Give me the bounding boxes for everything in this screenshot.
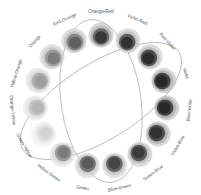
swatch-green-blue (127, 142, 152, 167)
swatch-yellow-green (50, 142, 75, 167)
swatch-violet (151, 68, 176, 93)
label-red-violet: Red-Violet (158, 32, 176, 52)
swatch-orange (39, 44, 64, 69)
shade-circle (69, 37, 81, 49)
shade-circle (82, 157, 94, 169)
label-blue-green: Blue-Green (107, 183, 131, 193)
swatch-violet-red (115, 28, 140, 53)
shade-circle (150, 127, 162, 139)
swatch-violet-blue (146, 122, 171, 147)
shade-circle (95, 31, 107, 43)
swatch-red-orange (62, 28, 87, 53)
label-orange-red: Orange-Red (88, 9, 114, 14)
swatch-yellow-orange (26, 68, 51, 93)
label-green-yellow: Green-Yellow (15, 132, 33, 159)
swatch-green-yellow (31, 122, 56, 147)
swatch-red-violet (138, 44, 163, 69)
shade-circle (158, 102, 170, 114)
shade-circle (32, 102, 44, 114)
swatch-blue-violet (154, 95, 179, 120)
shade-circle (132, 147, 144, 159)
shade-circle (142, 52, 154, 64)
label-red-orange: Red-Orange (52, 12, 78, 27)
label-orange: Orange (28, 34, 42, 49)
swatch-green (75, 153, 100, 178)
shade-circle (121, 37, 133, 49)
label-violet-red: Violet-Red (127, 13, 149, 26)
label-orange-yellow: Orange-Yellow (9, 95, 17, 126)
swatch-orange-yellow (23, 95, 48, 120)
label-blue-violet: Blue-Violet (186, 98, 193, 121)
label-violet: Violet (182, 67, 191, 80)
label-green-blue: Green-Blue (142, 164, 164, 182)
label-violet-blue: Violet-Blue (170, 134, 186, 156)
swatch-blue-green (102, 153, 127, 178)
color-wheel-diagram: Orange-RedViolet-RedRed-VioletVioletBlue… (0, 0, 201, 195)
shade-circle (40, 127, 52, 139)
label-yellow-orange: Yellow-Orange (9, 58, 23, 88)
swatch-orange-red (89, 23, 114, 48)
shade-circle (156, 75, 168, 87)
label-green: Green (76, 184, 90, 192)
shade-circle (48, 52, 60, 64)
shade-circle (34, 75, 46, 87)
shade-circle (58, 147, 70, 159)
hue-swatches (23, 23, 179, 179)
shade-circle (108, 157, 120, 169)
